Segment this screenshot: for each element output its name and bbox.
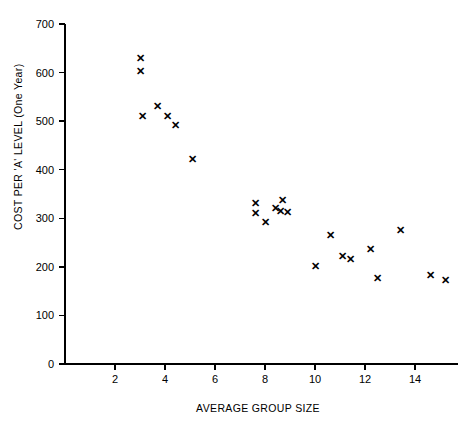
- data-points: ✕✕✕✕✕✕✕✕✕✕✕✕✕✕✕✕✕✕✕✕✕✕✕: [136, 52, 450, 287]
- x-tick-label: 2: [112, 373, 118, 385]
- y-tick-label: 400: [36, 164, 54, 176]
- y-tick-label: 300: [36, 212, 54, 224]
- y-tick-label: 200: [36, 261, 54, 273]
- x-axis-label: AVERAGE GROUP SIZE: [196, 402, 320, 414]
- axis-lines: [65, 24, 458, 364]
- x-tick-label: 10: [309, 373, 321, 385]
- data-point-marker: ✕: [171, 119, 180, 131]
- data-point-marker: ✕: [426, 269, 435, 281]
- data-point-marker: ✕: [188, 153, 197, 165]
- y-tick-label: 100: [36, 309, 54, 321]
- x-tick-label: 12: [359, 373, 371, 385]
- scatter-chart: 0100200300400500600700 2468101214 ✕✕✕✕✕✕…: [0, 0, 474, 432]
- x-tick-label: 4: [162, 373, 168, 385]
- data-point-marker: ✕: [153, 100, 162, 112]
- y-tick-label: 600: [36, 67, 54, 79]
- data-point-marker: ✕: [138, 110, 147, 122]
- data-point-marker: ✕: [441, 274, 450, 286]
- data-point-marker: ✕: [136, 52, 145, 64]
- x-axis-ticks: 2468101214: [112, 364, 421, 385]
- y-axis-ticks: 0100200300400500600700: [36, 18, 65, 370]
- y-tick-label: 500: [36, 115, 54, 127]
- x-tick-label: 14: [409, 373, 421, 385]
- data-point-marker: ✕: [366, 243, 375, 255]
- data-point-marker: ✕: [283, 206, 292, 218]
- data-point-marker: ✕: [373, 272, 382, 284]
- data-point-marker: ✕: [278, 194, 287, 206]
- data-point-marker: ✕: [251, 207, 260, 219]
- data-point-marker: ✕: [136, 65, 145, 77]
- y-tick-label: 0: [48, 358, 54, 370]
- data-point-marker: ✕: [346, 253, 355, 265]
- data-point-marker: ✕: [311, 260, 320, 272]
- data-point-marker: ✕: [261, 216, 270, 228]
- data-point-marker: ✕: [326, 229, 335, 241]
- x-tick-label: 8: [262, 373, 268, 385]
- plot-area: 0100200300400500600700 2468101214 ✕✕✕✕✕✕…: [0, 0, 474, 432]
- data-point-marker: ✕: [396, 224, 405, 236]
- y-axis-label: COST PER 'A' LEVEL (One Year): [12, 64, 24, 230]
- x-tick-label: 6: [212, 373, 218, 385]
- y-tick-label: 700: [36, 18, 54, 30]
